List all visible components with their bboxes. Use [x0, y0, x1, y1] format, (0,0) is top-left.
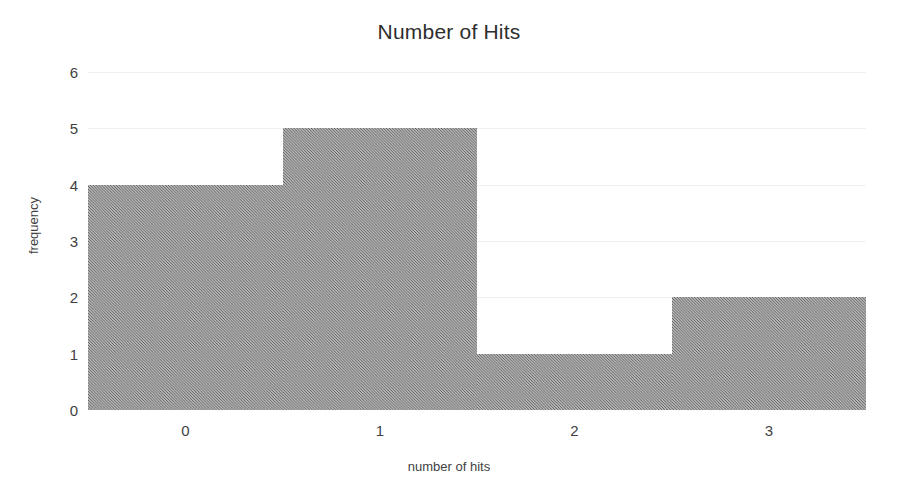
- histogram-bar[interactable]: [672, 297, 867, 410]
- y-tick-2: 2: [48, 290, 78, 305]
- y-tick-6: 6: [48, 65, 78, 80]
- gridline-6: [88, 72, 866, 73]
- y-tick-5: 5: [48, 121, 78, 136]
- y-tick-3: 3: [48, 234, 78, 249]
- gridline-5: [88, 128, 866, 129]
- y-axis-tick-labels: 6 5 4 3 2 1 0: [38, 72, 78, 410]
- x-tick-1: 1: [350, 423, 410, 438]
- y-tick-0: 0: [48, 403, 78, 418]
- x-tick-2: 2: [544, 423, 604, 438]
- plot-area: [88, 72, 866, 410]
- y-tick-4: 4: [48, 178, 78, 193]
- x-tick-3: 3: [739, 423, 799, 438]
- histogram-figure: Number of Hits 6 5 4 3 2 1 0 0 1 2 3 num…: [0, 0, 898, 499]
- histogram-bar[interactable]: [88, 185, 283, 410]
- histogram-bar[interactable]: [283, 128, 478, 410]
- chart-title: Number of Hits: [0, 20, 898, 44]
- x-axis-label: number of hits: [0, 459, 898, 474]
- x-axis-tick-labels: 0 1 2 3: [88, 423, 866, 447]
- y-axis-label: frequency: [26, 166, 41, 286]
- histogram-bar[interactable]: [477, 354, 672, 410]
- y-tick-1: 1: [48, 347, 78, 362]
- x-tick-0: 0: [155, 423, 215, 438]
